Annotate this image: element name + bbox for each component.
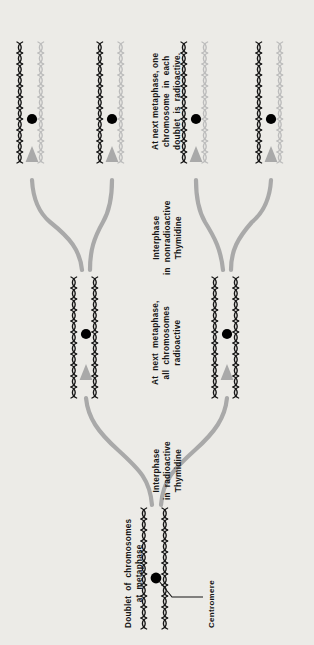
centromere-dot <box>222 329 232 339</box>
centromere-dot <box>266 114 276 124</box>
caption-bottom-stage: Doublet of chromosomes at metaphase <box>123 519 145 628</box>
centromere-dot <box>107 114 117 124</box>
caption-middle-transition: Interphase in nonradioactive Thymidine <box>151 200 184 275</box>
centromere-dot <box>81 329 91 339</box>
centromere-dot <box>27 114 37 124</box>
centromere-label: Centromere <box>206 580 217 628</box>
caption-top-stage: At next metaphase, one chromosome in eac… <box>150 53 183 150</box>
caption-bottom-transition: Interphase in radioactive Thymidine <box>151 441 184 500</box>
caption-middle-stage: At next metaphase, all chromosomes radio… <box>150 300 183 385</box>
centromere-dot <box>191 114 201 124</box>
figure-canvas: At next metaphase, one chromosome in eac… <box>0 0 314 645</box>
